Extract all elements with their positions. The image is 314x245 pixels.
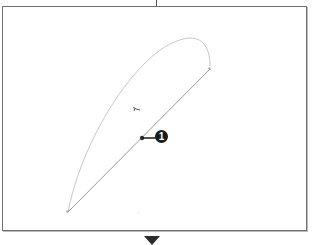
straight-path-segment [68, 69, 210, 212]
path-illustration [0, 0, 314, 245]
callout-badge-1: 1 [155, 130, 168, 143]
pen-cursor-icon [133, 107, 140, 111]
curved-path-segment [68, 38, 210, 212]
down-arrow-icon [144, 236, 160, 245]
guide-dot [138, 212, 139, 213]
anchor-point-start [67, 211, 69, 213]
anchor-point-end [209, 68, 211, 70]
